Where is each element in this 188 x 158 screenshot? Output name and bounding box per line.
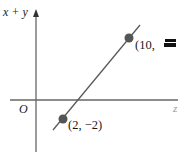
origin-label: O — [19, 102, 28, 116]
point-2-neg2 — [59, 115, 68, 124]
obscured-mark — [165, 39, 176, 42]
point-10 — [125, 34, 134, 43]
graph-diagram: x + y O (2, −2) (10, z — [0, 0, 188, 158]
point-label-2-neg2: (2, −2) — [68, 118, 102, 132]
y-axis-label: x + y — [2, 5, 28, 19]
point-label-10: (10, — [135, 38, 155, 52]
obscured-mark — [164, 43, 176, 47]
x-axis-label: z — [172, 102, 178, 114]
arrowhead-icon — [33, 9, 39, 17]
